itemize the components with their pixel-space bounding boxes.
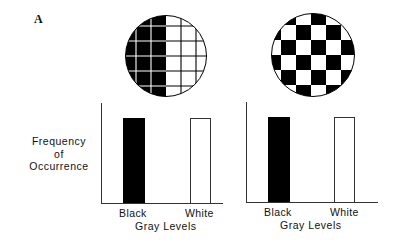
right-tick-white: White bbox=[330, 206, 359, 218]
left-x-axis-label: Gray Levels bbox=[135, 220, 197, 232]
left-tick-black: Black bbox=[119, 207, 147, 219]
left-bar-white bbox=[191, 119, 211, 204]
y-label-line1: Frequency bbox=[14, 135, 104, 148]
left-histogram bbox=[101, 103, 223, 204]
right-tick-black: Black bbox=[264, 206, 292, 218]
y-label-line2: of bbox=[14, 148, 104, 161]
left-bar-black bbox=[123, 118, 145, 203]
left-tick-white: White bbox=[185, 207, 214, 219]
y-axis-label: Frequency of Occurrence bbox=[14, 135, 104, 173]
right-bar-white bbox=[335, 118, 355, 203]
right-bar-black bbox=[268, 117, 290, 202]
half-black-grid-image bbox=[120, 10, 212, 102]
checkerboard-image bbox=[266, 10, 371, 100]
right-histogram bbox=[246, 102, 378, 203]
y-label-line3: Occurrence bbox=[14, 160, 104, 173]
right-x-axis-label: Gray Levels bbox=[280, 219, 342, 231]
